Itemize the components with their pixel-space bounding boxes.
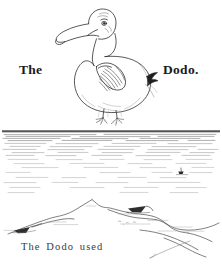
foot-right [111, 118, 123, 125]
leg-left [103, 109, 104, 118]
wing-inner-curve [98, 66, 111, 68]
beak-lower [65, 35, 99, 42]
water-hatching-far [4, 159, 214, 192]
beak-tip [56, 40, 65, 45]
bottom-right-stroke [150, 241, 190, 258]
label-dodo: Dodo. [163, 63, 199, 77]
ridge-left [8, 200, 92, 234]
foot-left [96, 118, 107, 125]
tail-tuft [147, 73, 158, 86]
page-caption: The Dodo used [21, 241, 103, 252]
neck-front [92, 39, 96, 66]
label-the: The [19, 63, 42, 77]
water-hatching-dense [3, 134, 216, 140]
ridge-inner-right [156, 220, 188, 233]
dodo-illustration [0, 0, 222, 267]
horizon-rule-shadow [2, 132, 220, 133]
ridge-inner-mid [108, 210, 156, 220]
seascape-illustration [0, 0, 222, 267]
ridge-right [128, 213, 219, 231]
ridge-hatching [4, 206, 204, 231]
bird-right [126, 206, 153, 213]
beak-upper [56, 24, 89, 43]
shore-marks [118, 221, 136, 224]
eye [102, 21, 107, 25]
leg-right [116, 111, 117, 119]
eye-brow [101, 19, 108, 20]
shore-base-right [140, 230, 198, 250]
eye-pupil [103, 23, 105, 25]
bird-left [12, 223, 42, 233]
body-outline [74, 56, 150, 112]
water-hatching-mid [3, 143, 218, 155]
ridge-peak [92, 200, 128, 213]
ridge-inner-left [32, 219, 74, 227]
neck-back [105, 34, 116, 57]
tail-wisp-1 [146, 84, 155, 97]
shore-base-right2 [188, 233, 212, 242]
wing-feathers [99, 67, 124, 91]
horizon-rule [2, 130, 220, 131]
tail-wisp-2 [147, 82, 157, 92]
shore-spit [164, 238, 206, 257]
page-canvas: The Dodo. The Dodo used [0, 0, 222, 267]
wing-outline [96, 63, 125, 90]
beak-mouth-line [87, 30, 97, 36]
distant-boat [176, 168, 188, 175]
head-outline [89, 9, 117, 39]
